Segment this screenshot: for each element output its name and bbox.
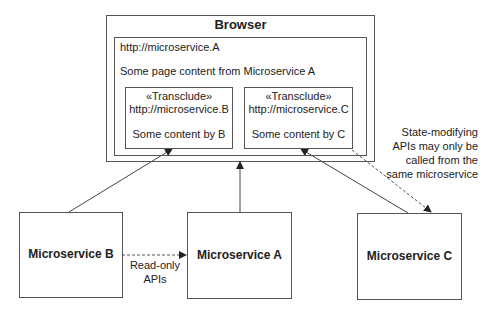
- page-url: http://microservice.A: [120, 41, 220, 54]
- browser-title: Browser: [106, 18, 375, 31]
- microservice-c-label: Microservice C: [357, 250, 462, 263]
- transclude-c-content: Some content by C: [244, 128, 353, 141]
- microservice-b-label: Microservice B: [19, 248, 123, 261]
- page-content: Some page content from Microservice A: [120, 65, 315, 78]
- transclude-b-stereotype: «Transclude»: [125, 90, 233, 103]
- state-modifying-note: State-modifying APIs may only be called …: [380, 125, 478, 181]
- read-only-note: Read-only APIs: [125, 258, 185, 286]
- microservice-a-label: Microservice A: [187, 249, 292, 262]
- transclude-b-content: Some content by B: [125, 128, 233, 141]
- transclude-c-stereotype: «Transclude»: [244, 90, 353, 103]
- transclude-b-url: http://microservice.B: [125, 103, 233, 116]
- transclude-c-url: http://microservice.C: [244, 103, 353, 116]
